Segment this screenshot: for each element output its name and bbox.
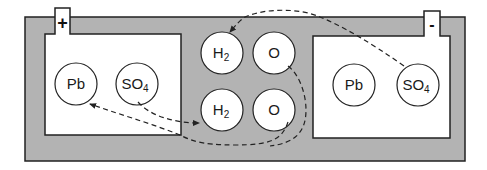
lead-acid-battery-diagram: + - Pb SO4 H2 O H2 O Pb SO4 — [0, 0, 487, 170]
molecule-subscript: 2 — [224, 109, 230, 120]
top-o-molecule: O — [253, 32, 295, 74]
molecule-symbol: Pb — [345, 76, 363, 93]
molecule-symbol: SO — [402, 76, 424, 93]
svg-text:Pb: Pb — [67, 75, 85, 92]
svg-text:Pb: Pb — [345, 76, 363, 93]
molecule-symbol: SO — [121, 75, 143, 92]
molecule-symbol: H — [213, 101, 224, 118]
svg-text:O: O — [268, 44, 280, 61]
molecule-symbol: O — [268, 44, 280, 61]
right-so4-molecule: SO4 — [397, 64, 439, 106]
molecule-symbol: Pb — [67, 75, 85, 92]
molecule-symbol: H — [213, 44, 224, 61]
top-h2-molecule: H2 — [201, 32, 243, 74]
left-pb-molecule: Pb — [55, 63, 97, 105]
svg-text:O: O — [268, 101, 280, 118]
molecule-subscript: 4 — [143, 83, 149, 94]
right-pb-molecule: Pb — [333, 64, 375, 106]
negative-terminal-label: - — [429, 16, 434, 33]
molecule-subscript: 2 — [224, 52, 230, 63]
molecule-subscript: 4 — [424, 84, 430, 95]
positive-terminal-label: + — [57, 13, 68, 33]
left-so4-molecule: SO4 — [116, 63, 158, 105]
bottom-h2-molecule: H2 — [201, 89, 243, 131]
molecule-symbol: O — [268, 101, 280, 118]
bottom-o-molecule: O — [253, 89, 295, 131]
